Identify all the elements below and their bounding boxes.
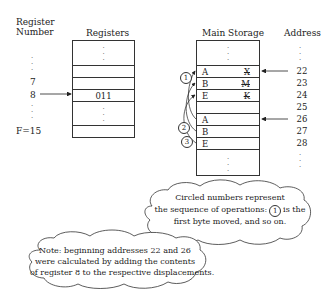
sequence-note-line1: Circled numbers represent: [160, 192, 300, 203]
operation-marker-3: 3: [181, 136, 193, 148]
sequence-note-line2-before: the sequence of operations:: [155, 205, 268, 214]
operation-marker-1: 1: [180, 72, 192, 84]
operation-marker-2: 2: [178, 122, 190, 134]
sequence-note-line2-after: is the: [283, 205, 305, 214]
address-note-line3: of register 8 to the respective displace…: [30, 267, 200, 278]
address-note-line2: were calculated by adding the contents: [30, 256, 200, 267]
address-note-line1: Note: beginning addresses 22 and 26: [30, 245, 200, 256]
sequence-note-line3: first byte moved, and so on.: [160, 216, 300, 227]
sequence-note-line2: the sequence of operations:1is the: [150, 204, 310, 216]
